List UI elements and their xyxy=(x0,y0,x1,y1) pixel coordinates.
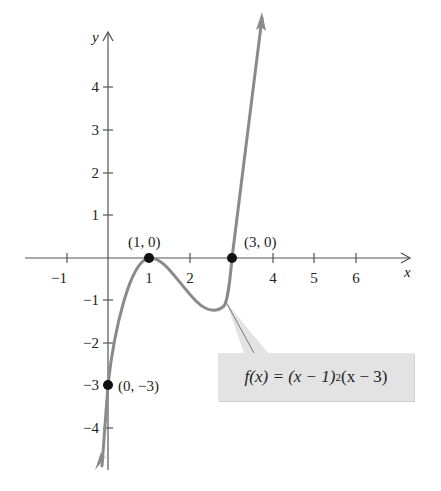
point-label: (0, −3) xyxy=(118,378,159,395)
y-tick-label: −2 xyxy=(83,335,99,351)
callout-pointer xyxy=(226,302,268,353)
y-tick-label: −3 xyxy=(83,377,99,393)
x-tick-label: 2 xyxy=(186,270,194,286)
point-3-0 xyxy=(227,253,237,263)
function-label: f(x) = (x − 1) xyxy=(245,367,336,387)
x-tick-label: 5 xyxy=(310,270,318,286)
function-label-rest: (x − 3) xyxy=(341,367,387,387)
function-callout-box: f(x) = (x − 1)2 (x − 3) xyxy=(218,353,414,401)
x-tick-label: 4 xyxy=(269,270,277,286)
y-tick-label: 4 xyxy=(92,79,100,95)
point-1-0 xyxy=(144,253,154,263)
x-tick-label: 1 xyxy=(145,270,153,286)
y-tick-label: 1 xyxy=(92,207,100,223)
x-axis-label: x xyxy=(403,264,411,280)
y-tick-label: −1 xyxy=(83,292,99,308)
graph-canvas: −1 1 2 4 5 6 4 3 2 1 −1 −2 −3 −4 x y (1,… xyxy=(0,0,441,491)
y-tick-label: 3 xyxy=(92,122,100,138)
x-tick-label: −1 xyxy=(51,270,67,286)
point-0-neg3 xyxy=(103,380,113,390)
x-tick-label: 6 xyxy=(352,270,360,286)
point-label: (1, 0) xyxy=(128,234,161,251)
point-label: (3, 0) xyxy=(244,234,277,251)
y-axis-label: y xyxy=(90,29,99,45)
callout-pointer-edge xyxy=(226,302,254,353)
y-tick-label: 2 xyxy=(92,165,100,181)
y-tick-label: −4 xyxy=(83,420,99,436)
